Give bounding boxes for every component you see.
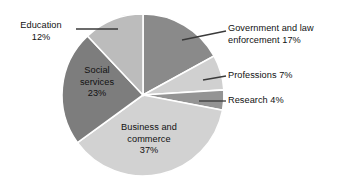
slice-label-research: Research 4% — [228, 95, 336, 107]
pie-chart-figure: Government and law enforcement 17% Profe… — [0, 0, 339, 182]
slice-label-education: Education 12% — [8, 20, 74, 43]
slice-label-business-and-commerce: Business and commerce 37% — [103, 122, 195, 157]
slice-label-government-and-law-enforcement: Government and law enforcement 17% — [228, 23, 336, 46]
slice-label-social-services: Social services 23% — [66, 65, 128, 100]
slice-label-professions: Professions 7% — [228, 70, 336, 82]
